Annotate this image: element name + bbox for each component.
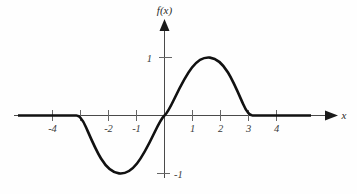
figure-container: -4 -2 -1 1 2 3 4 1 -1 f(x) x bbox=[0, 0, 357, 194]
function-plot: -4 -2 -1 1 2 3 4 1 -1 f(x) x bbox=[0, 0, 357, 194]
x-tick-label-1: 1 bbox=[190, 123, 195, 134]
x-tick-label-minus4: -4 bbox=[48, 123, 57, 134]
y-axis-label: f(x) bbox=[157, 4, 173, 17]
x-tick-label-minus1: -1 bbox=[132, 123, 141, 134]
x-tick-label-3: 3 bbox=[245, 123, 251, 134]
y-axis-arrow-icon bbox=[160, 19, 170, 31]
y-tick-label-1: 1 bbox=[147, 53, 152, 64]
x-axis-label: x bbox=[341, 109, 347, 121]
y-tick-label-minus1: -1 bbox=[174, 169, 183, 180]
x-axis-arrow-icon bbox=[325, 111, 338, 121]
x-tick-label-minus2: -2 bbox=[104, 123, 113, 134]
x-tick-label-4: 4 bbox=[274, 123, 280, 134]
x-tick-label-2: 2 bbox=[218, 123, 224, 134]
